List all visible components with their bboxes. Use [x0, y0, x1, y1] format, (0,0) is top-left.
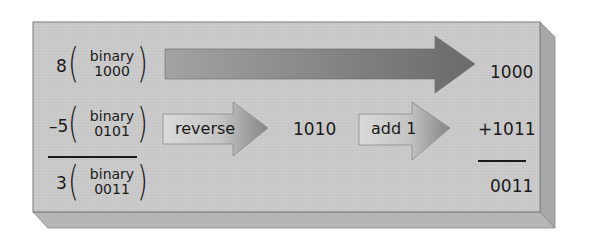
decimal-8: 8	[56, 58, 67, 75]
result-plus1011: +1011	[478, 121, 536, 138]
reversed-value: 1010	[293, 121, 336, 138]
decimal-minus5: –5	[49, 118, 68, 135]
result-0011: 0011	[490, 178, 533, 195]
result-1000: 1000	[490, 64, 533, 81]
reverse-label: reverse	[175, 121, 235, 137]
binary-label-minus5: binary 0101	[82, 109, 142, 139]
binary-word: binary	[82, 49, 142, 64]
box-bevel-bottom	[33, 212, 555, 228]
binary-word: binary	[82, 167, 142, 182]
left-paren: (	[68, 103, 79, 143]
right-sum-rule	[478, 160, 526, 162]
right-paren: )	[137, 103, 148, 143]
right-paren: )	[137, 43, 148, 83]
left-paren: (	[68, 161, 79, 201]
left-sum-rule	[48, 156, 137, 158]
right-paren: )	[137, 161, 148, 201]
binary-word: binary	[82, 109, 142, 124]
binary-value: 1000	[82, 64, 142, 79]
left-paren: (	[68, 43, 79, 83]
decimal-3: 3	[56, 175, 67, 192]
add-one-label: add 1	[371, 121, 416, 137]
binary-label-8: binary 1000	[82, 49, 142, 79]
binary-label-3: binary 0011	[82, 167, 142, 197]
binary-value: 0011	[82, 182, 142, 197]
binary-value: 0101	[82, 124, 142, 139]
box-bevel-right	[540, 22, 555, 228]
twos-complement-diagram: 8 ( binary 1000 ) 1000 –5 ( binary 0101 …	[0, 0, 592, 241]
